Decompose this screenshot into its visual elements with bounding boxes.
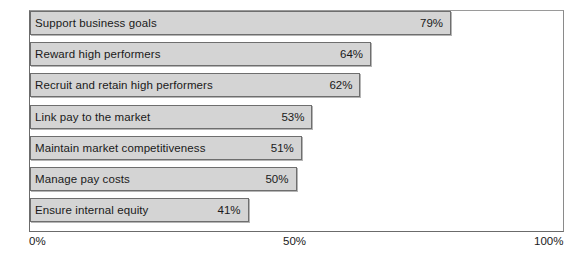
bar-row: Manage pay costs50% <box>30 167 563 191</box>
bar-value-label: 64% <box>333 42 363 66</box>
bar-row: Maintain market competitiveness51% <box>30 136 563 160</box>
bar-value-label: 51% <box>264 136 294 160</box>
bar-category-label: Maintain market competitiveness <box>35 136 206 160</box>
x-tick-label-0: 0% <box>29 233 46 249</box>
bars-container: Support business goals79%Reward high per… <box>30 10 563 230</box>
bar-category-label: Ensure internal equity <box>35 198 148 222</box>
bar-category-label: Support business goals <box>35 11 157 35</box>
bar-row: Ensure internal equity41% <box>30 198 563 222</box>
bar-row: Support business goals79% <box>30 11 563 35</box>
bar-category-label: Reward high performers <box>35 42 161 66</box>
bar-category-label: Recruit and retain high performers <box>35 73 213 97</box>
x-axis-tick-labels: 0% 50% 100% <box>0 233 588 253</box>
bar-row: Recruit and retain high performers62% <box>30 73 563 97</box>
bar-value-label: 53% <box>274 105 304 129</box>
x-tick-label-100: 100% <box>534 233 563 249</box>
bar-row: Reward high performers64% <box>30 42 563 66</box>
bar-value-label: 50% <box>259 167 289 191</box>
bar-category-label: Manage pay costs <box>35 167 130 191</box>
horizontal-bar-chart: Support business goals79%Reward high per… <box>0 0 588 262</box>
bar-value-label: 79% <box>413 11 443 35</box>
bar-value-label: 41% <box>211 198 241 222</box>
bar-category-label: Link pay to the market <box>35 105 150 129</box>
bar-value-label: 62% <box>322 73 352 97</box>
bar-row: Link pay to the market53% <box>30 105 563 129</box>
x-tick-label-50: 50% <box>283 233 306 249</box>
